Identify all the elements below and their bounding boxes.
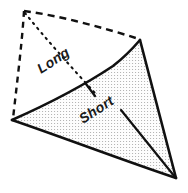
label-long: Long	[34, 44, 73, 77]
geodesic-triangle-figure: Long Short	[0, 0, 188, 193]
dashed-arc-apex-to-left-vertex	[13, 11, 24, 119]
dashed-arc-apex-to-top-right	[24, 11, 139, 39]
figure-root: Long Short	[0, 0, 188, 193]
